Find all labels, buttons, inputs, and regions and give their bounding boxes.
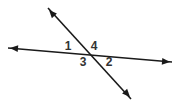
geometry-diagram-canvas: 1432 <box>0 0 180 106</box>
angle-label-3: 3 <box>80 55 87 69</box>
angle-label-2: 2 <box>106 55 113 69</box>
geometry-figure: 1432 <box>0 0 180 106</box>
angle-label-1: 1 <box>65 39 72 53</box>
angle-label-4: 4 <box>91 39 98 53</box>
